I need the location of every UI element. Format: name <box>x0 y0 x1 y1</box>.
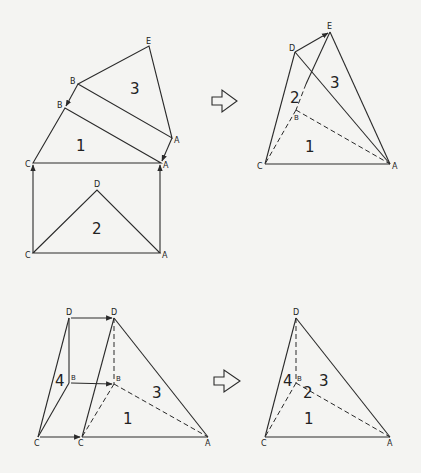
vertex-label-c: C <box>257 162 263 171</box>
edge-bc-hidden <box>265 110 296 164</box>
region-label-4: 4 <box>55 372 65 390</box>
vertex-label-d: D <box>111 308 117 317</box>
vertex-label-c: C <box>25 160 31 169</box>
region-label-3: 3 <box>152 384 162 402</box>
vertex-label-a: A <box>162 251 168 260</box>
arrow-a-translate <box>162 138 172 161</box>
vertex-label-c: C <box>261 439 267 448</box>
edge-bc-hidden <box>265 383 296 437</box>
vertex-label-a: A <box>174 136 180 145</box>
region-label-3: 3 <box>130 80 140 98</box>
vertex-label-e: E <box>146 37 151 46</box>
arrow-b-translate <box>71 383 112 384</box>
vertex-label-b: B <box>294 114 299 122</box>
vertex-label-a: A <box>392 162 398 171</box>
triangle-3 <box>78 46 172 138</box>
vertex-label-b: B <box>297 375 302 383</box>
vertex-label-c: C <box>34 439 40 448</box>
region-label-3: 3 <box>319 372 329 390</box>
triangle-1 <box>33 108 161 163</box>
region-label-1: 1 <box>305 138 315 156</box>
vertex-label-c: C <box>78 439 84 448</box>
transform-arrow-top-icon <box>212 90 237 112</box>
panel-bottom-right: D B C A 4 3 2 1 <box>261 308 393 448</box>
vertex-label-a: A <box>387 439 393 448</box>
vertex-label-a: A <box>205 439 211 448</box>
panel-bottom-left: D D B B C C A 4 3 1 <box>34 308 211 448</box>
panel-top-right: E D B C A 2 3 1 <box>257 22 398 171</box>
vertex-label-d: D <box>293 308 299 317</box>
vertex-label-b: B <box>57 101 63 110</box>
vertex-label-d: D <box>66 308 72 317</box>
region-label-3: 3 <box>330 74 340 92</box>
edge-bc-hidden <box>82 384 114 437</box>
vertex-label-b: B <box>71 374 76 382</box>
edge-b-c-left <box>38 383 69 437</box>
vertex-label-c: C <box>25 251 31 260</box>
panel-top-left: E B B A A C D C A 3 1 2 <box>25 37 180 260</box>
tetrahedron-dissection-diagram: E B B A A C D C A 3 1 2 E D B C A 2 3 1 <box>0 0 421 473</box>
region-label-2: 2 <box>303 384 313 402</box>
arrow-d-to-e <box>295 33 328 52</box>
region-label-1: 1 <box>304 410 314 428</box>
vertex-label-e: E <box>327 22 332 31</box>
arrow-b-translate <box>66 84 78 106</box>
region-label-2: 2 <box>92 220 102 238</box>
edge-cd <box>82 318 114 437</box>
edge-cd <box>265 52 295 164</box>
region-label-4: 4 <box>283 372 293 390</box>
region-label-2: 2 <box>290 89 300 107</box>
vertex-label-a: A <box>163 161 169 170</box>
edge-ea <box>330 32 390 164</box>
transform-arrow-bottom-icon <box>214 370 240 392</box>
vertex-label-d: D <box>94 180 100 189</box>
vertex-label-b: B <box>70 77 76 86</box>
region-label-1: 1 <box>123 410 133 428</box>
vertex-label-b: B <box>116 375 121 383</box>
diagram-canvas: E B B A A C D C A 3 1 2 E D B C A 2 3 1 <box>0 0 421 473</box>
region-label-1: 1 <box>76 137 86 155</box>
vertex-label-d: D <box>289 44 295 53</box>
edge-eb <box>306 32 330 84</box>
